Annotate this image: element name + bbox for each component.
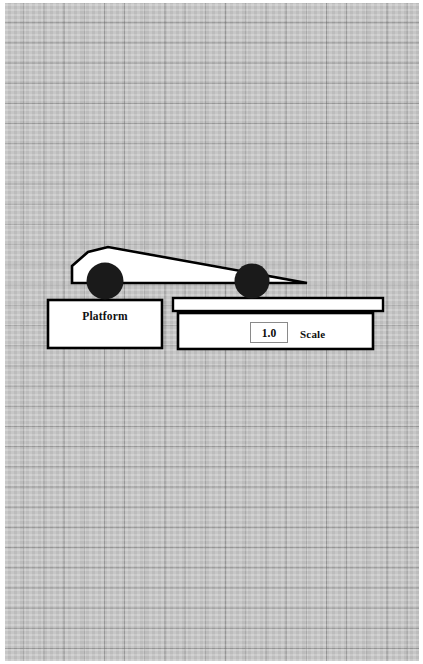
- rear-wheel: [235, 264, 270, 299]
- platform-label: Platform: [48, 310, 162, 322]
- scale-readout-value: 1.0: [251, 323, 287, 342]
- scale-label: Scale: [300, 328, 325, 340]
- scale-plate: [173, 298, 383, 311]
- platform-box: [48, 300, 162, 348]
- front-wheel: [87, 263, 124, 300]
- simulation-canvas: Platform 1.0 Scale: [0, 0, 423, 664]
- scale-readout-box: 1.0: [250, 322, 288, 343]
- scene-graphics: [0, 0, 423, 664]
